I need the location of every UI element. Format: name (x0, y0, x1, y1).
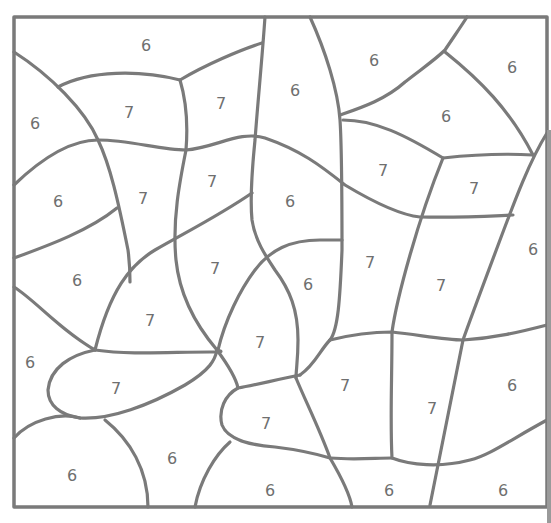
region-number: 6 (53, 192, 63, 211)
region-number: 6 (25, 353, 35, 372)
region-number: 7 (207, 172, 217, 191)
region-number: 6 (285, 192, 295, 211)
region-number: 7 (216, 94, 226, 113)
region-number: 6 (290, 81, 300, 100)
region-number: 7 (340, 376, 350, 395)
region-number: 7 (469, 179, 479, 198)
region-number: 7 (124, 103, 134, 122)
region-number: 7 (427, 399, 437, 418)
region-number: 7 (261, 414, 271, 433)
region-number: 6 (528, 240, 538, 259)
region-number: 7 (111, 379, 121, 398)
region-number: 7 (210, 259, 220, 278)
region-number: 6 (67, 466, 77, 485)
puzzle-border (14, 17, 547, 507)
region-number: 6 (384, 481, 394, 500)
region-number: 6 (507, 376, 517, 395)
region-number: 6 (507, 58, 517, 77)
region-number: 6 (498, 481, 508, 500)
region-number: 6 (167, 449, 177, 468)
region-number: 6 (30, 114, 40, 133)
page-edge-shadow (547, 130, 551, 523)
region-number: 6 (141, 36, 151, 55)
region-number: 7 (365, 253, 375, 272)
region-number: 7 (145, 311, 155, 330)
region-number: 6 (303, 275, 313, 294)
region-number: 6 (441, 107, 451, 126)
region-number: 6 (265, 481, 275, 500)
puzzle-drawing (0, 0, 551, 523)
region-number: 7 (138, 189, 148, 208)
region-number: 7 (255, 333, 265, 352)
region-number: 7 (436, 276, 446, 295)
region-number: 7 (378, 161, 388, 180)
region-number: 6 (369, 51, 379, 70)
region-number: 6 (72, 271, 82, 290)
